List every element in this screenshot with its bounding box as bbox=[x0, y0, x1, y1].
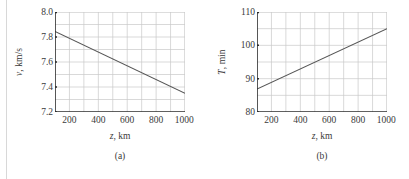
y-tick-label: 7.8 bbox=[41, 32, 53, 42]
chart-svg-a bbox=[55, 12, 185, 112]
panel-caption-b: (b) bbox=[257, 151, 387, 161]
chart-panel-a: v, km/s 7.2 7.4 7.6 7.8 8.0 bbox=[0, 0, 204, 179]
grid-horizontal-a bbox=[55, 12, 185, 99]
chart-panel-b: T, min 80 90 100 110 bbox=[205, 0, 409, 179]
figure-page: v, km/s 7.2 7.4 7.6 7.8 8.0 bbox=[0, 0, 409, 179]
y-tick-labels-b: 80 90 100 110 bbox=[225, 12, 255, 112]
figure-row: v, km/s 7.2 7.4 7.6 7.8 8.0 bbox=[0, 0, 409, 179]
x-tick-label: 400 bbox=[293, 115, 307, 125]
x-tick-label: 600 bbox=[120, 115, 134, 125]
y-tick-label: 7.4 bbox=[41, 82, 53, 92]
x-tick-label: 800 bbox=[149, 115, 163, 125]
x-tick-labels-a: 200 400 600 800 1000 bbox=[55, 115, 185, 129]
y-tick-label: 80 bbox=[246, 107, 256, 117]
grid-horizontal-b bbox=[257, 12, 387, 95]
x-tick-label: 400 bbox=[91, 115, 105, 125]
y-tick-label: 100 bbox=[241, 40, 255, 50]
data-line-b bbox=[257, 29, 387, 89]
x-tick-label: 200 bbox=[62, 115, 76, 125]
y-tick-label: 7.2 bbox=[41, 107, 53, 117]
x-tick-label: 600 bbox=[322, 115, 336, 125]
plot-area-a bbox=[55, 12, 185, 112]
y-tick-label: 110 bbox=[241, 7, 255, 17]
x-axis-unit-b: , km bbox=[315, 131, 332, 141]
chart-svg-b bbox=[257, 12, 387, 112]
x-axis-label-b: z, km bbox=[257, 131, 387, 141]
x-tick-labels-b: 200 400 600 800 1000 bbox=[257, 115, 387, 129]
x-axis-unit-a: , km bbox=[113, 131, 130, 141]
x-tick-label: 1000 bbox=[377, 115, 396, 125]
y-tick-label: 7.6 bbox=[41, 57, 53, 67]
y-tick-labels-a: 7.2 7.4 7.6 7.8 8.0 bbox=[22, 12, 53, 112]
x-tick-label: 800 bbox=[351, 115, 365, 125]
y-tick-label: 90 bbox=[246, 74, 256, 84]
y-tick-label: 8.0 bbox=[41, 7, 53, 17]
x-tick-label: 200 bbox=[264, 115, 278, 125]
x-tick-label: 1000 bbox=[175, 115, 194, 125]
panel-caption-a: (a) bbox=[55, 151, 185, 161]
x-axis-label-a: z, km bbox=[55, 131, 185, 141]
plot-area-b bbox=[257, 12, 387, 112]
